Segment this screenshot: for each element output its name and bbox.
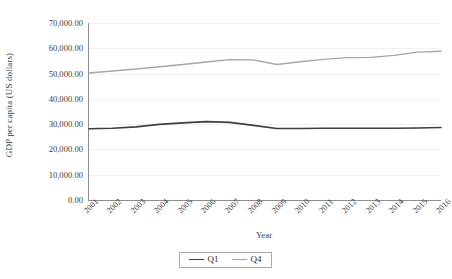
- x-axis-title: Year: [88, 230, 440, 240]
- legend-swatch-icon: [232, 259, 247, 260]
- legend-swatch-icon: [189, 259, 204, 260]
- plot-area: [88, 23, 441, 201]
- y-axis-tick-label: 50,000.00: [49, 69, 83, 79]
- chart-legend: Q1Q4: [0, 252, 450, 268]
- y-axis-tick-label: 60,000.00: [49, 43, 83, 53]
- y-axis-title: GDP per capita (US dollars): [0, 0, 18, 210]
- legend-item-q1[interactable]: Q1: [189, 255, 219, 264]
- y-axis-tick-label: 0.00: [68, 195, 83, 205]
- y-axis-tick-label: 30,000.00: [49, 119, 83, 129]
- y-axis-tick-label: 20,000.00: [49, 144, 83, 154]
- legend-item-q4[interactable]: Q4: [232, 255, 262, 264]
- legend-box: Q1Q4: [179, 252, 272, 268]
- legend-label: Q4: [251, 255, 262, 264]
- y-axis-title-label: GDP per capita (US dollars): [4, 53, 14, 157]
- series-line-q1: [89, 122, 441, 129]
- y-axis-tick-label: 40,000.00: [49, 94, 83, 104]
- y-axis-tick-label: 10,000.00: [49, 170, 83, 180]
- series-container: [89, 23, 441, 200]
- y-axis-tick-label: 70,000.00: [49, 18, 83, 28]
- series-line-q4: [89, 51, 441, 73]
- y-axis-tick-labels: 0.0010,000.0020,000.0030,000.0040,000.00…: [18, 0, 86, 210]
- legend-label: Q1: [208, 255, 219, 264]
